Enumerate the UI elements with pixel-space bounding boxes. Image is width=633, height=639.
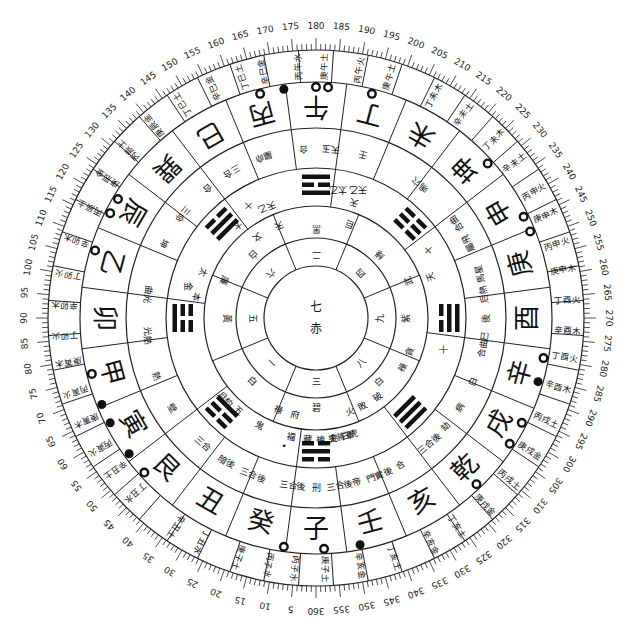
- degree-label: 195: [382, 28, 401, 42]
- degree-tick: [236, 56, 238, 62]
- fenjin-label: 庚辰金: [141, 112, 166, 139]
- degree-label: 220: [494, 85, 514, 104]
- open-marker-dot: [320, 545, 328, 553]
- mountain-150: 巳: [192, 116, 230, 155]
- degree-tick: [62, 418, 68, 420]
- degree-tick: [349, 46, 350, 52]
- inner-ring-label: 天乙: [256, 199, 277, 215]
- inner-ring-label: 太: [231, 218, 245, 232]
- degree-tick: [492, 520, 496, 525]
- degree-tick: [97, 479, 102, 483]
- degree-tick: [129, 514, 133, 518]
- fenjin-label: 丙辰土: [75, 198, 104, 219]
- degree-tick: [577, 256, 583, 257]
- degree-label: 190: [357, 24, 376, 37]
- degree-tick: [155, 538, 162, 548]
- degree-tick: [527, 149, 532, 153]
- degree-tick: [126, 511, 130, 515]
- degree-label: 255: [591, 233, 605, 252]
- fenjin-label: 丙申火: [542, 235, 571, 252]
- degree-tick: [524, 146, 529, 150]
- degree-tick: [583, 294, 595, 295]
- degree-label: 295: [573, 432, 589, 452]
- degree-tick: [163, 91, 166, 96]
- fenjin-label: 庚寅木: [72, 411, 101, 431]
- fenjin-label: 庚戌金: [472, 492, 497, 519]
- inner-ring-label: 天: [348, 196, 360, 208]
- degree-tick: [568, 410, 579, 414]
- degree-tick: [376, 579, 377, 585]
- degree-tick: [220, 570, 224, 581]
- ring-3: [166, 168, 466, 468]
- degree-tick: [412, 568, 414, 574]
- degree-tick: [54, 238, 60, 240]
- degree-tick: [40, 269, 52, 271]
- degree-tick: [548, 452, 558, 458]
- degree-tick: [390, 55, 392, 61]
- degree-label: 55: [69, 478, 84, 493]
- degree-tick: [292, 585, 293, 597]
- degree-tick: [167, 88, 170, 93]
- degree-tick: [458, 545, 461, 550]
- open-marker-dot: [141, 469, 149, 477]
- luoshu-label: 九: [375, 314, 385, 323]
- degree-tick: [399, 57, 401, 63]
- fenjin-label: 辛巳金: [255, 57, 270, 85]
- degree-tick: [62, 431, 73, 436]
- degree-tick: [209, 66, 211, 72]
- degree-label: 25: [185, 576, 200, 590]
- degree-tick: [446, 552, 449, 557]
- star-label: 三合後: [238, 465, 267, 485]
- inner-ring-label: 天: [424, 271, 436, 283]
- open-marker-dot: [540, 354, 548, 362]
- luoshu-label: 綠: [372, 248, 386, 262]
- degree-label: 340: [406, 585, 426, 600]
- degree-tick: [425, 563, 427, 568]
- luoshu-label: 紫: [401, 314, 411, 323]
- degree-tick: [495, 517, 499, 521]
- degree-tick: [273, 47, 274, 53]
- degree-tick: [499, 514, 503, 518]
- degree-tick: [55, 401, 61, 403]
- star-divider: [427, 333, 465, 338]
- fenjin-label: 辛亥金: [353, 552, 368, 580]
- degree-tick: [566, 220, 572, 222]
- degree-tick: [100, 483, 105, 487]
- open-marker-dot: [518, 419, 526, 427]
- mountain-135: 巽: [147, 149, 187, 189]
- degree-label: 65: [44, 434, 58, 449]
- degree-tick: [147, 529, 151, 534]
- fenjin-label: 辛卯木: [51, 300, 78, 311]
- inner-ring-label: 福: [285, 430, 296, 443]
- degree-tick: [89, 165, 94, 168]
- degree-tick: [416, 566, 418, 572]
- degree-tick: [176, 550, 182, 560]
- degree-label: 100: [22, 258, 35, 277]
- yang-line: [302, 175, 330, 180]
- degree-tick: [155, 535, 159, 540]
- degree-label: 205: [430, 45, 450, 61]
- degree-tick: [512, 501, 516, 505]
- degree-label: 345: [382, 593, 401, 607]
- bagua-divider: [213, 338, 268, 361]
- degree-tick: [112, 135, 116, 139]
- degree-label: 165: [231, 28, 250, 42]
- degree-tick: [283, 584, 284, 590]
- open-marker-dot: [484, 160, 492, 168]
- degree-tick: [45, 280, 51, 281]
- degree-tick: [264, 581, 265, 587]
- degree-tick: [133, 517, 137, 521]
- yin-line: [189, 304, 194, 316]
- degree-tick: [425, 68, 427, 73]
- gua-star-label: 巨: [344, 218, 356, 230]
- degree-tick: [44, 346, 50, 347]
- degree-tick: [557, 198, 562, 201]
- degree-tick: [278, 47, 279, 53]
- degree-tick: [559, 200, 570, 205]
- degree-label: 90: [19, 312, 29, 324]
- luoshu-label: 白: [246, 248, 260, 262]
- degree-tick: [254, 579, 255, 585]
- star-label: 後: [480, 314, 491, 323]
- fenjin-label: 辛酉木: [544, 378, 573, 395]
- mountain-90: 卯: [90, 305, 120, 331]
